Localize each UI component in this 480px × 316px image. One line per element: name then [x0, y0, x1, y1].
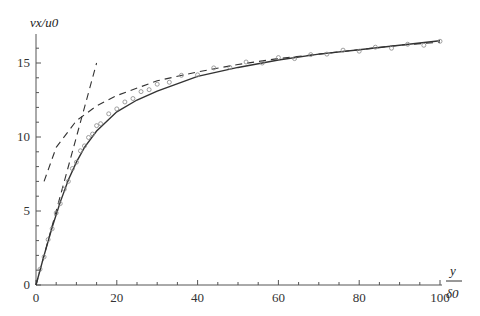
data-point-marker — [167, 80, 171, 84]
x-tick-label: 60 — [272, 290, 285, 305]
y-tick-label: 15 — [17, 55, 30, 70]
x-tick-label: 80 — [353, 290, 366, 305]
x-tick-label: 40 — [191, 290, 204, 305]
y-tick-label: 10 — [17, 129, 30, 144]
model-curve — [36, 41, 440, 285]
data-point-marker — [115, 107, 119, 111]
x-axis-title-numerator: y — [448, 263, 456, 278]
y-axis-title: vx/u0 — [30, 15, 59, 30]
data-point-marker — [155, 82, 159, 86]
data-point-marker — [107, 112, 111, 116]
asymptote-dashed-curve — [44, 42, 440, 181]
data-point-marker — [276, 56, 280, 60]
x-tick-label: 20 — [110, 290, 123, 305]
axis-tick-labels: 020406080100051015 — [17, 55, 450, 305]
data-point-marker — [95, 124, 99, 128]
y-tick-label: 5 — [24, 203, 31, 218]
axis-ticks — [36, 48, 440, 285]
data-point-marker — [99, 122, 103, 126]
data-point-marker — [123, 100, 127, 104]
velocity-profile-chart: 020406080100051015 vx/u0 y δ0 — [0, 0, 480, 316]
y-tick-label: 0 — [24, 277, 31, 292]
data-point-marker — [139, 90, 143, 94]
data-point-marker — [244, 60, 248, 64]
plot-series — [36, 39, 442, 285]
data-point-marker — [147, 88, 151, 92]
x-axis-title-denominator: δ0 — [446, 286, 459, 301]
data-point-marker — [131, 97, 135, 101]
data-point-marker — [87, 135, 91, 139]
data-point-marker — [422, 43, 426, 47]
x-tick-label: 0 — [33, 290, 40, 305]
